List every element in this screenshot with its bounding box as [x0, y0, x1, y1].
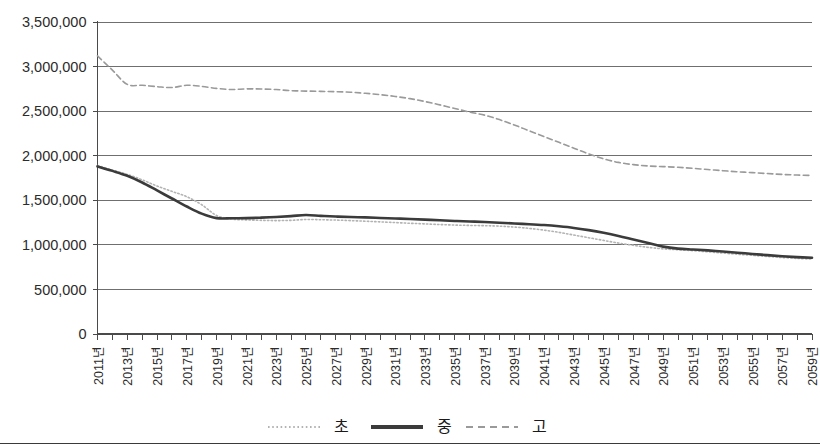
x-tick-label: 2045년 [598, 346, 612, 386]
x-tick-label: 2053년 [717, 346, 731, 386]
x-tick-label: 2059년 [806, 346, 820, 386]
series-line-중 [98, 166, 813, 257]
legend-label-초: 초 [334, 418, 349, 435]
legend-label-고: 고 [532, 418, 547, 435]
y-tick-label: 3,000,000 [22, 59, 87, 75]
x-tick-label: 2041년 [538, 346, 552, 386]
legend-label-중: 중 [437, 418, 452, 435]
y-tick-label: 3,500,000 [22, 14, 87, 30]
x-tick-label: 2051년 [687, 346, 701, 386]
x-tick-label: 2011년 [92, 346, 106, 385]
x-tick-label: 2025년 [300, 346, 314, 386]
chart-container: 3,500,0003,000,0002,500,0002,000,0001,50… [0, 0, 820, 445]
x-tick-label: 2021년 [241, 346, 255, 386]
series-line-고 [98, 56, 813, 176]
x-axis: 2011년2013년2015년2017년2019년2021년2023년2025년… [92, 334, 820, 386]
x-tick-label: 2019년 [211, 346, 225, 386]
y-tick-label: 2,000,000 [22, 148, 87, 164]
y-tick-label: 1,000,000 [22, 237, 87, 253]
x-tick-label: 2035년 [449, 346, 463, 386]
x-tick-label: 2033년 [419, 346, 433, 386]
x-tick-label: 2031년 [389, 346, 403, 386]
chart-legend: 초중고 [268, 418, 547, 435]
x-tick-label: 2039년 [508, 346, 522, 386]
y-tick-label: 500,000 [34, 282, 86, 298]
line-chart: 3,500,0003,000,0002,500,0002,000,0001,50… [0, 0, 820, 445]
x-tick-label: 2017년 [181, 346, 195, 386]
x-tick-label: 2043년 [568, 346, 582, 386]
x-tick-label: 2049년 [657, 346, 671, 386]
x-tick-label: 2037년 [479, 346, 493, 386]
gridlines [98, 22, 813, 334]
x-tick-label: 2023년 [270, 346, 284, 386]
y-tick-label: 1,500,000 [22, 192, 87, 208]
x-tick-label: 2027년 [330, 346, 344, 386]
x-tick-label: 2047년 [628, 346, 642, 386]
x-tick-label: 2029년 [360, 346, 374, 386]
data-series-group [98, 56, 813, 259]
x-tick-label: 2013년 [121, 346, 135, 386]
x-tick-label: 2057년 [776, 346, 790, 386]
y-axis: 3,500,0003,000,0002,500,0002,000,0001,50… [22, 14, 98, 342]
y-tick-label: 0 [78, 326, 86, 342]
x-tick-label: 2015년 [151, 346, 165, 386]
y-tick-label: 2,500,000 [22, 103, 87, 119]
x-tick-label: 2055년 [747, 346, 761, 386]
